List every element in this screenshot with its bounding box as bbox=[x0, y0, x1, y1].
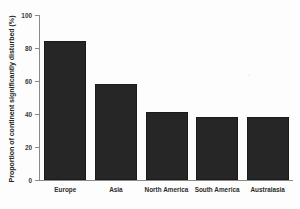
bar-slot bbox=[146, 15, 188, 180]
y-axis-tick-mark bbox=[35, 114, 39, 115]
y-axis-title: Proportion of continent significantly di… bbox=[8, 13, 16, 185]
y-axis-tick-label: 60 bbox=[10, 78, 32, 85]
bar bbox=[146, 112, 188, 180]
x-axis-tick-label: South America bbox=[192, 186, 243, 193]
y-axis-tick-label: 40 bbox=[10, 111, 32, 118]
bar-slot bbox=[95, 15, 137, 180]
x-axis-tick-label: Europe bbox=[40, 186, 91, 193]
bar bbox=[95, 84, 137, 180]
bar-slot bbox=[247, 15, 289, 180]
y-axis-tick-label: 80 bbox=[10, 45, 32, 52]
bar-slot bbox=[44, 15, 86, 180]
x-axis-tick-label: North America bbox=[141, 186, 192, 193]
bar bbox=[196, 117, 238, 180]
bar bbox=[247, 117, 289, 180]
y-axis-tick-mark bbox=[35, 15, 39, 16]
bar-slot bbox=[196, 15, 238, 180]
y-axis-tick-label: 100 bbox=[10, 12, 32, 19]
y-axis-tick-label: 0 bbox=[10, 177, 32, 184]
y-axis-tick-mark bbox=[35, 147, 39, 148]
plot-area bbox=[40, 15, 293, 180]
x-axis-tick-label: Australasia bbox=[242, 186, 293, 193]
x-axis-tick-label: Asia bbox=[91, 186, 142, 193]
y-axis-tick-mark bbox=[35, 81, 39, 82]
y-axis-tick-label: 20 bbox=[10, 144, 32, 151]
y-axis-tick-mark bbox=[35, 48, 39, 49]
x-axis-line bbox=[39, 180, 293, 181]
bar bbox=[44, 41, 86, 180]
y-axis-tick-mark bbox=[35, 180, 39, 181]
bar-chart-figure: Proportion of continent significantly di… bbox=[0, 0, 300, 209]
